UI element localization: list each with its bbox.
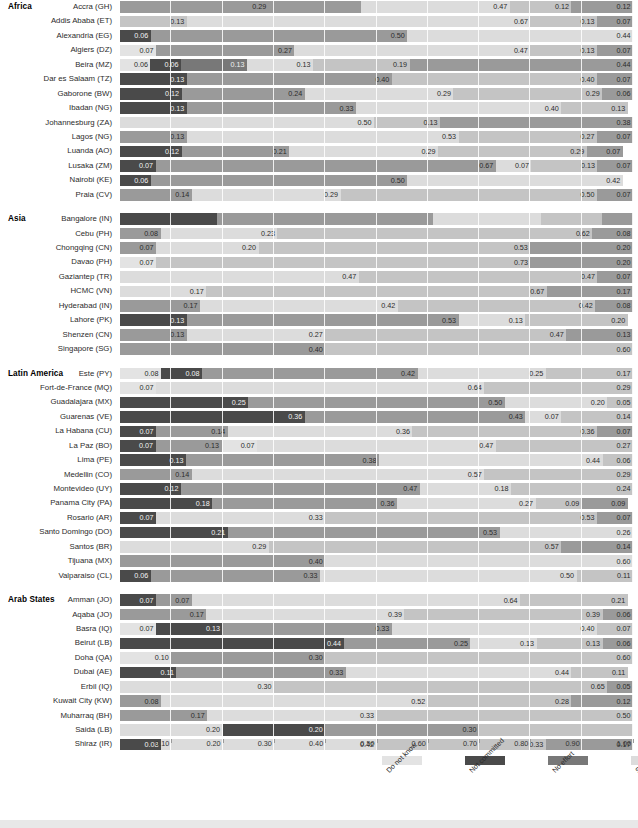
- segment-value: 0.60: [616, 346, 633, 353]
- chart-row: Davao (PH)0.070.730.20: [0, 255, 638, 269]
- chart-row: Valparaiso (CL)0.060.330.500.11: [0, 569, 638, 583]
- segment-value: 0.33: [375, 625, 392, 632]
- segment-value: 0.11: [612, 669, 628, 676]
- city-label: Lahore (PK): [0, 313, 116, 327]
- chart-row: Lagos (NG)0.130.530.270.07: [0, 130, 638, 144]
- bar-track: 0.120.210.290.290.07: [120, 146, 633, 158]
- bar-segment: 0.50: [151, 30, 408, 42]
- segment-value: 0.08: [617, 230, 634, 237]
- bar-track: 0.070.130.070.470.27: [120, 440, 633, 452]
- bar-segment: 0.73: [156, 257, 530, 269]
- legend-item[interactable]: No effort: [548, 756, 588, 765]
- chart-row: Santos (BR)0.290.570.14: [0, 540, 638, 554]
- bar-segment: 0.50: [320, 570, 577, 582]
- city-label: Beirut (LB): [0, 636, 116, 650]
- bar-segment: 0.30: [120, 681, 274, 693]
- bar-segment: 0.47: [257, 440, 496, 452]
- segment-value: 0.05: [616, 399, 633, 406]
- axis-tick-label: 0.30: [258, 739, 274, 748]
- bar-track: 0.080.520.280.12: [120, 695, 633, 707]
- segment-value: 0.40: [309, 558, 326, 565]
- bar-segment: 0.33: [223, 623, 392, 635]
- city-label: Tijuana (MX): [0, 554, 116, 568]
- bar-track: 0.180.360.270.090.09: [120, 498, 633, 510]
- legend-item[interactable]: Not committed: [465, 756, 505, 765]
- bar-segment: 0.13: [156, 440, 222, 452]
- segment-value: 0.33: [329, 669, 346, 676]
- bar-segment: 0.42: [407, 175, 622, 187]
- segment-value: 0.17: [616, 370, 633, 377]
- city-label: Ibadan (NG): [0, 101, 116, 115]
- segment-value: 0.40: [309, 346, 326, 353]
- bar-segment: 0.40: [356, 102, 561, 114]
- bar-segment: 0.07: [597, 45, 633, 57]
- segment-value: 0.27: [581, 133, 598, 140]
- bar-segment: 0.40: [392, 73, 597, 85]
- city-label: Medellin (CO): [0, 468, 116, 482]
- segment-value: 0.12: [165, 90, 182, 97]
- bar-segment: 0.40: [392, 623, 597, 635]
- bar-segment: 0.07: [120, 242, 156, 254]
- bar-segment: 0.13: [120, 73, 187, 85]
- segment-value: 0.12: [164, 485, 181, 492]
- legend-item[interactable]: Somewhat: [631, 756, 638, 765]
- city-label: Dar es Salaam (TZ): [0, 72, 116, 86]
- segment-value: 0.07: [139, 384, 156, 391]
- bar-track: [120, 213, 633, 225]
- segment-value: 0.17: [617, 288, 634, 295]
- segment-value: 0.07: [616, 76, 633, 83]
- segment-value: 0.08: [186, 370, 203, 377]
- segment-value: 0.07: [139, 514, 156, 521]
- chart-row: Erbil (IQ)0.300.650.05: [0, 680, 638, 694]
- chart-row: Doha (QA)0.100.300.60: [0, 651, 638, 665]
- bar-segment: 0.06: [603, 609, 633, 621]
- city-label: Praia (CV): [0, 188, 116, 202]
- segment-value: 0.13: [586, 640, 603, 647]
- bar-segment: 0.53: [259, 242, 531, 254]
- city-label: Montevideo (UY): [0, 482, 116, 496]
- city-label: Doha (QA): [0, 651, 116, 665]
- city-label: Panama City (PA): [0, 496, 116, 510]
- segment-value: 0.21: [611, 597, 628, 604]
- segment-value: 0.11: [160, 669, 176, 676]
- bar-segment: 0.50: [376, 710, 633, 722]
- segment-value: 0.08: [145, 370, 162, 377]
- bar-segment: [433, 213, 541, 225]
- chart-row: Praia (CV)0.140.290.500.07: [0, 188, 638, 202]
- bar-segment: 0.52: [161, 695, 428, 707]
- legend-item[interactable]: Do not know: [382, 756, 422, 765]
- bar-track: 0.070.270.470.130.07: [120, 45, 633, 57]
- chart-row: Chongqing (CN)0.070.200.530.20: [0, 241, 638, 255]
- bar-track: 0.130.400.400.07: [120, 73, 633, 85]
- segment-value: 0.11: [617, 572, 633, 579]
- segment-value: 0.62: [576, 230, 593, 237]
- bar-segment: 0.17: [546, 368, 633, 380]
- segment-value: 0.06: [617, 611, 634, 618]
- bar-segment: 0.07: [597, 271, 633, 283]
- city-label: Davao (PH): [0, 255, 116, 269]
- bar-track: 0.080.080.420.250.17: [120, 368, 633, 380]
- bar-segment: 0.29: [453, 88, 602, 100]
- segment-value: 0.14: [175, 191, 192, 198]
- bar-segment: 0.50: [120, 117, 374, 129]
- chart-row: Medellin (CO)0.140.570.29: [0, 468, 638, 482]
- bar-segment: 0.25: [344, 638, 471, 650]
- bar-segment: 0.36: [120, 411, 305, 423]
- segment-value: 0.13: [230, 61, 247, 68]
- city-label: Chongqing (CN): [0, 241, 116, 255]
- bar-segment: [541, 213, 603, 225]
- bar-segment: 0.33: [176, 667, 345, 679]
- bar-segment: 0.27: [397, 498, 536, 510]
- segment-value: 0.29: [252, 3, 269, 10]
- bar-segment: 0.07: [120, 160, 156, 172]
- bar-segment: 0.23: [161, 228, 278, 240]
- segment-value: 0.14: [211, 428, 228, 435]
- chart-row: Addis Ababa (ET)0.130.670.130.07: [0, 14, 638, 28]
- segment-value: 0.43: [509, 413, 526, 420]
- segment-value: 0.19: [393, 61, 410, 68]
- segment-value: 0.50: [581, 191, 598, 198]
- bar-track: 0.170.330.50: [120, 710, 633, 722]
- bar-track: 0.100.300.60: [120, 652, 633, 664]
- bar-track: 0.080.230.620.08: [120, 228, 633, 240]
- chart-row: La Habana (CU)0.070.140.360.360.07: [0, 424, 638, 438]
